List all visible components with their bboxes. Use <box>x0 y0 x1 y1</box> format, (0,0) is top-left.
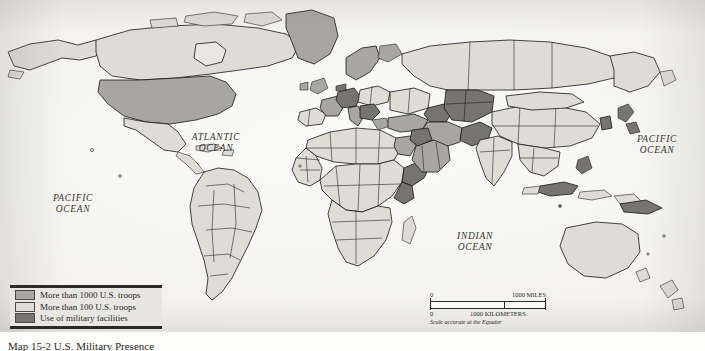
legend-swatch-troops-100 <box>15 302 35 312</box>
ocean-label-atlantic: ATLANTIC OCEAN <box>176 132 256 154</box>
figure-caption: Map 15-2 U.S. Military Presence <box>8 340 428 351</box>
legend-label-facilities: Use of military facilities <box>40 313 128 323</box>
ocean-label-pacific-right: PACIFIC OCEAN <box>620 134 694 156</box>
world-map-svg: .c { stroke:#171614; stroke-width:.8; st… <box>0 0 705 332</box>
legend-item-troops-1000: More than 1000 U.S. troops <box>15 290 162 302</box>
map-figure: .c { stroke:#171614; stroke-width:.8; st… <box>0 0 705 351</box>
scale-bar-cap-right <box>545 298 546 310</box>
legend-swatch-troops-1000 <box>15 290 35 300</box>
map-legend: More than 1000 U.S. troops More than 100… <box>10 285 162 329</box>
scale-miles-max: 1000 MILES <box>512 291 546 298</box>
scale-bar-graphic <box>430 301 546 309</box>
ocean-label-pacific-left: PACIFIC OCEAN <box>36 193 110 215</box>
legend-item-facilities: Use of military facilities <box>15 313 162 325</box>
scale-miles-min: 0 <box>430 291 433 298</box>
legend-label-troops-1000: More than 1000 U.S. troops <box>40 290 141 300</box>
legend-swatch-facilities <box>15 313 35 323</box>
scale-km-min: 0 <box>430 310 433 317</box>
legend-item-troops-100: More than 100 U.S. troops <box>15 301 162 313</box>
legend-label-troops-100: More than 100 U.S. troops <box>40 302 136 312</box>
legend-bottom-rule <box>10 326 162 329</box>
figure-caption-text: Map 15-2 U.S. Military Presence <box>8 340 428 351</box>
scale-bar-midtick <box>504 302 505 309</box>
legend-body: More than 1000 U.S. troops More than 100… <box>10 288 162 327</box>
ocean-label-indian: INDIAN OCEAN <box>438 231 512 253</box>
scale-km-labels: 0 1000 KILOMETERS <box>430 310 546 319</box>
scale-accuracy-note: Scale accurate at the Equator <box>430 319 546 325</box>
scale-bar-cap-left <box>430 298 431 310</box>
map-plate: .c { stroke:#171614; stroke-width:.8; st… <box>0 0 705 332</box>
scale-km-max: 1000 KILOMETERS <box>470 310 526 317</box>
map-scale-bar: 0 1000 MILES 0 1000 KILOMETERS Scale acc… <box>430 291 546 325</box>
scale-bar-outline <box>430 301 546 309</box>
scale-miles-labels: 0 1000 MILES <box>430 291 546 300</box>
